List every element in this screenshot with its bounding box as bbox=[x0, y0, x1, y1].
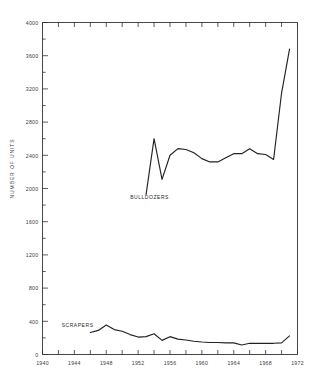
y-tick-label: 2400 bbox=[26, 153, 39, 159]
y-tick-label: 4000 bbox=[26, 20, 39, 26]
y-axis-title: NUMBER OF UNITS bbox=[9, 139, 15, 199]
series-annotation-scrapers: SCRAPERS bbox=[62, 322, 94, 328]
x-tick-label: 1964 bbox=[227, 360, 240, 366]
y-tick-label: 1600 bbox=[26, 219, 39, 225]
chart-container: 0400800120016002000240028003200360040001… bbox=[0, 0, 319, 381]
x-tick-label: 1944 bbox=[68, 360, 81, 366]
y-tick-label: 2800 bbox=[26, 119, 39, 125]
y-tick-label: 2000 bbox=[26, 186, 39, 192]
x-tick-label: 1940 bbox=[36, 360, 49, 366]
y-tick-label: 400 bbox=[29, 319, 39, 325]
x-tick-label: 1956 bbox=[164, 360, 177, 366]
line-chart: 0400800120016002000240028003200360040001… bbox=[0, 0, 319, 381]
plot-frame bbox=[43, 23, 298, 355]
x-tick-label: 1948 bbox=[100, 360, 113, 366]
y-tick-label: 3600 bbox=[26, 53, 39, 59]
x-tick-label: 1968 bbox=[259, 360, 272, 366]
x-tick-label: 1960 bbox=[196, 360, 209, 366]
y-tick-label: 800 bbox=[29, 285, 39, 291]
y-tick-label: 3200 bbox=[26, 86, 39, 92]
series-annotation-bulldozers: BULLDOZERS bbox=[130, 194, 169, 200]
x-tick-label: 1972 bbox=[291, 360, 304, 366]
x-tick-label: 1952 bbox=[132, 360, 145, 366]
series-line-bulldozers bbox=[146, 49, 289, 194]
series-line-scrapers bbox=[90, 325, 289, 345]
y-tick-label: 1200 bbox=[26, 252, 39, 258]
y-tick-label: 0 bbox=[35, 352, 38, 358]
